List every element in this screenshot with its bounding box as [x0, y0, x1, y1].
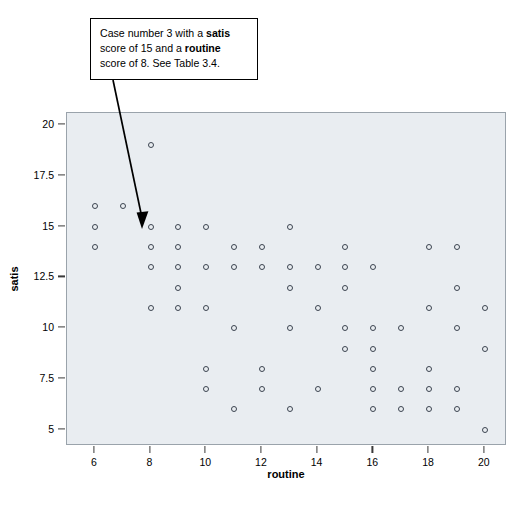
data-point — [203, 386, 209, 392]
data-point — [92, 224, 98, 230]
y-tick-label: 10 — [42, 321, 54, 333]
data-point — [120, 203, 126, 209]
data-point — [482, 346, 488, 352]
y-tick-mark — [58, 225, 65, 226]
data-point — [148, 244, 154, 250]
data-point — [370, 346, 376, 352]
y-tick-mark — [58, 276, 65, 277]
data-point — [203, 366, 209, 372]
callout-bold-satis: satis — [206, 27, 230, 39]
x-tick-mark — [93, 446, 94, 453]
data-point — [203, 305, 209, 311]
data-point — [175, 305, 181, 311]
data-point — [426, 244, 432, 250]
data-point — [342, 244, 348, 250]
data-point — [398, 386, 404, 392]
data-point — [370, 366, 376, 372]
x-tick-label: 16 — [366, 456, 378, 468]
data-point — [454, 285, 460, 291]
data-point — [148, 224, 154, 230]
data-point — [454, 386, 460, 392]
data-point — [482, 427, 488, 433]
x-tick-mark — [149, 446, 150, 453]
x-axis-title: routine — [267, 468, 304, 480]
data-point — [259, 244, 265, 250]
data-point — [259, 264, 265, 270]
data-point — [203, 224, 209, 230]
y-tick-label: 15 — [42, 220, 54, 232]
data-point — [259, 386, 265, 392]
data-point — [426, 305, 432, 311]
data-point — [315, 305, 321, 311]
data-point — [92, 203, 98, 209]
data-point — [342, 264, 348, 270]
callout-text-3: score of 8. See Table 3.4. — [100, 57, 220, 69]
data-point — [287, 224, 293, 230]
x-tick-mark — [427, 446, 428, 453]
data-point — [175, 244, 181, 250]
data-point — [259, 366, 265, 372]
data-point — [398, 406, 404, 412]
x-tick-mark — [316, 446, 317, 453]
scatter-plot-figure: Case number 3 with a satis score of 15 a… — [0, 0, 527, 512]
data-point — [315, 264, 321, 270]
x-tick-label: 20 — [478, 456, 490, 468]
data-point — [287, 325, 293, 331]
y-tick-label: 5 — [48, 423, 54, 435]
y-tick-label: 20 — [42, 118, 54, 130]
x-tick-label: 8 — [147, 456, 153, 468]
data-point — [92, 244, 98, 250]
callout-text-1: Case number 3 with a — [100, 27, 206, 39]
x-tick-label: 14 — [311, 456, 323, 468]
data-point — [426, 406, 432, 412]
x-tick-mark — [260, 446, 261, 453]
data-point — [287, 406, 293, 412]
data-point — [231, 264, 237, 270]
data-point — [231, 406, 237, 412]
y-tick-mark — [58, 174, 65, 175]
data-point — [398, 325, 404, 331]
y-tick-label: 7.5 — [39, 372, 54, 384]
data-point — [287, 285, 293, 291]
data-point — [342, 346, 348, 352]
data-point — [370, 264, 376, 270]
data-point — [454, 406, 460, 412]
data-point — [454, 244, 460, 250]
x-tick-label: 10 — [199, 456, 211, 468]
x-tick-label: 12 — [255, 456, 267, 468]
y-tick-mark — [58, 377, 65, 378]
callout-bold-routine: routine — [185, 42, 221, 54]
data-point — [231, 325, 237, 331]
x-tick-label: 6 — [91, 456, 97, 468]
data-point — [203, 264, 209, 270]
data-point — [454, 325, 460, 331]
data-point — [426, 386, 432, 392]
callout-text-2: score of 15 and a — [100, 42, 185, 54]
data-point — [370, 325, 376, 331]
data-point — [370, 386, 376, 392]
x-tick-label: 18 — [422, 456, 434, 468]
y-tick-mark — [58, 327, 65, 328]
data-point — [148, 142, 154, 148]
y-tick-mark — [58, 124, 65, 125]
data-point — [342, 285, 348, 291]
data-point — [426, 366, 432, 372]
data-point — [482, 305, 488, 311]
y-tick-label: 17.5 — [34, 169, 54, 181]
data-point — [175, 224, 181, 230]
data-point — [342, 325, 348, 331]
data-point — [287, 264, 293, 270]
data-point — [231, 244, 237, 250]
x-tick-mark — [483, 446, 484, 453]
annotation-callout: Case number 3 with a satis score of 15 a… — [90, 18, 258, 80]
y-tick-label: 12.5 — [34, 270, 54, 282]
data-point — [148, 305, 154, 311]
x-tick-mark — [205, 446, 206, 453]
data-point — [175, 264, 181, 270]
data-point — [175, 285, 181, 291]
y-axis-title: satis — [8, 266, 20, 291]
data-point — [370, 406, 376, 412]
y-tick-mark — [58, 428, 65, 429]
data-point — [148, 264, 154, 270]
x-tick-mark — [372, 446, 373, 453]
